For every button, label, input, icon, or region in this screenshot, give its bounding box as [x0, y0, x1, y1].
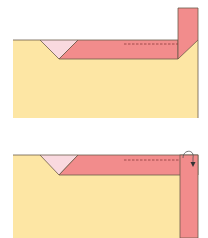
folding-diagram — [0, 0, 208, 238]
step-2-panel — [13, 151, 198, 238]
red-band — [59, 40, 178, 59]
folded-strip — [180, 155, 198, 238]
step-1-panel — [13, 8, 198, 118]
red-band — [59, 155, 198, 175]
